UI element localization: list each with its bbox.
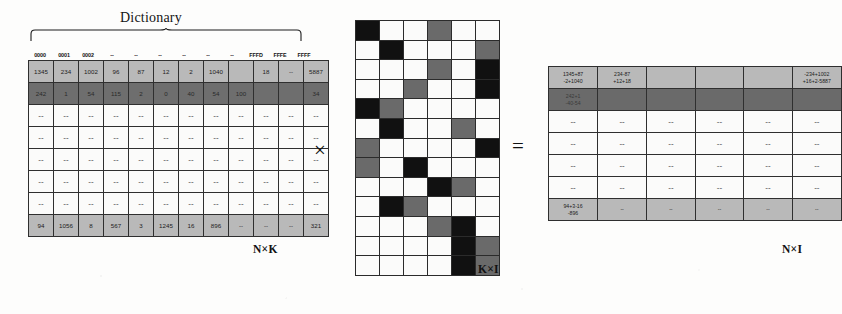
matrix-cell: --: [204, 105, 229, 127]
formula-line: --: [648, 139, 694, 149]
formula-line: --: [599, 183, 645, 193]
binary-cell: [428, 256, 452, 276]
matrix-cell: [229, 61, 254, 83]
binary-cell: [428, 197, 452, 217]
dictionary-brace-icon: [30, 28, 302, 42]
formula-line: --: [697, 117, 743, 127]
formula-cell: -234+1002+16+2-5887: [792, 67, 841, 89]
matrix-cell: --: [279, 127, 304, 149]
binary-cell: [380, 158, 404, 178]
matrix-cell: --: [79, 105, 104, 127]
formula-cell: --: [647, 199, 696, 221]
binary-cell: [476, 197, 500, 217]
table-row: [356, 99, 500, 119]
binary-cell: [356, 99, 380, 119]
binary-cell: [452, 236, 476, 256]
binary-cell: [356, 158, 380, 178]
binary-cell: [380, 138, 404, 158]
matrix-cell: --: [179, 149, 204, 171]
binary-cell: [428, 40, 452, 60]
binary-cell: [404, 21, 428, 41]
matrix-cell: --: [29, 105, 54, 127]
equals-operator: =: [512, 134, 524, 159]
matrix-cell: 94: [29, 215, 54, 237]
formula-line: --: [794, 139, 840, 149]
left-matrix-column-headers: 000000010002------------FFFDFFFEFFFF: [28, 44, 316, 59]
binary-cell: [476, 40, 500, 60]
matrix-cell: 5887: [304, 61, 329, 83]
binary-cell: [428, 158, 452, 178]
matrix-cell: --: [279, 61, 304, 83]
binary-cell: [404, 197, 428, 217]
binary-cell: [404, 177, 428, 197]
table-row: [356, 216, 500, 236]
binary-cell: [452, 60, 476, 80]
binary-cell: [476, 79, 500, 99]
matrix-cell: 54: [204, 83, 229, 105]
binary-cell: [428, 21, 452, 41]
binary-cell: [452, 21, 476, 41]
formula-line: --: [794, 206, 840, 212]
binary-cell: [452, 158, 476, 178]
figure-canvas: Dictionary 000000010002------------FFFDF…: [0, 0, 842, 314]
formula-cell: --: [549, 111, 598, 133]
middle-matrix-body: [356, 21, 500, 276]
matrix-cell: --: [254, 215, 279, 237]
matrix-cell: 16: [179, 215, 204, 237]
formula-line: --: [599, 206, 645, 212]
column-header: --: [172, 44, 196, 59]
formula-line: --: [550, 117, 596, 127]
matrix-cell: --: [204, 127, 229, 149]
binary-cell: [380, 216, 404, 236]
matrix-cell: --: [179, 127, 204, 149]
matrix-cell: 18: [254, 61, 279, 83]
matrix-cell: --: [179, 193, 204, 215]
matrix-cell: --: [54, 105, 79, 127]
formula-cell: --: [792, 199, 841, 221]
formula-cell: --: [647, 133, 696, 155]
matrix-cell: --: [154, 105, 179, 127]
formula-cell: --: [598, 177, 647, 199]
formula-line: --: [794, 161, 840, 171]
binary-cell: [356, 40, 380, 60]
binary-cell: [380, 21, 404, 41]
formula-cell: --: [744, 199, 793, 221]
binary-cell: [356, 236, 380, 256]
formula-line: --: [550, 161, 596, 171]
matrix-cell: --: [229, 105, 254, 127]
table-row: 242+1-40-54: [549, 89, 842, 111]
table-row: 1345+87-2+1040234-87+12+18-234+1002+16+2…: [549, 67, 842, 89]
matrix-cell: --: [29, 193, 54, 215]
binary-cell: [380, 99, 404, 119]
formula-line: --: [697, 206, 743, 212]
matrix-cell: --: [179, 105, 204, 127]
matrix-cell: 96: [104, 61, 129, 83]
matrix-cell: 1245: [154, 215, 179, 237]
matrix-cell: 3: [129, 215, 154, 237]
binary-cell: [356, 21, 380, 41]
formula-cell: 1345+87-2+1040: [549, 67, 598, 89]
matrix-cell: 1345: [29, 61, 54, 83]
binary-cell: [404, 118, 428, 138]
formula-line: --: [697, 139, 743, 149]
formula-cell: [792, 89, 841, 111]
table-row: ------------: [549, 177, 842, 199]
binary-cell: [452, 216, 476, 236]
matrix-cell: --: [179, 171, 204, 193]
table-row: [356, 197, 500, 217]
matrix-cell: 567: [104, 215, 129, 237]
matrix-cell: --: [204, 149, 229, 171]
formula-line: --: [697, 183, 743, 193]
left-matrix-body: 134523410029687122104018--58872421541152…: [29, 61, 329, 237]
binary-cell: [476, 60, 500, 80]
binary-cell: [356, 138, 380, 158]
formula-cell: --: [549, 155, 598, 177]
binary-cell: [452, 177, 476, 197]
matrix-cell: 234: [54, 61, 79, 83]
binary-cell: [404, 99, 428, 119]
binary-cell: [380, 60, 404, 80]
matrix-cell: --: [129, 149, 154, 171]
formula-line: --: [697, 161, 743, 171]
formula-cell: [695, 67, 744, 89]
matrix-cell: --: [54, 127, 79, 149]
